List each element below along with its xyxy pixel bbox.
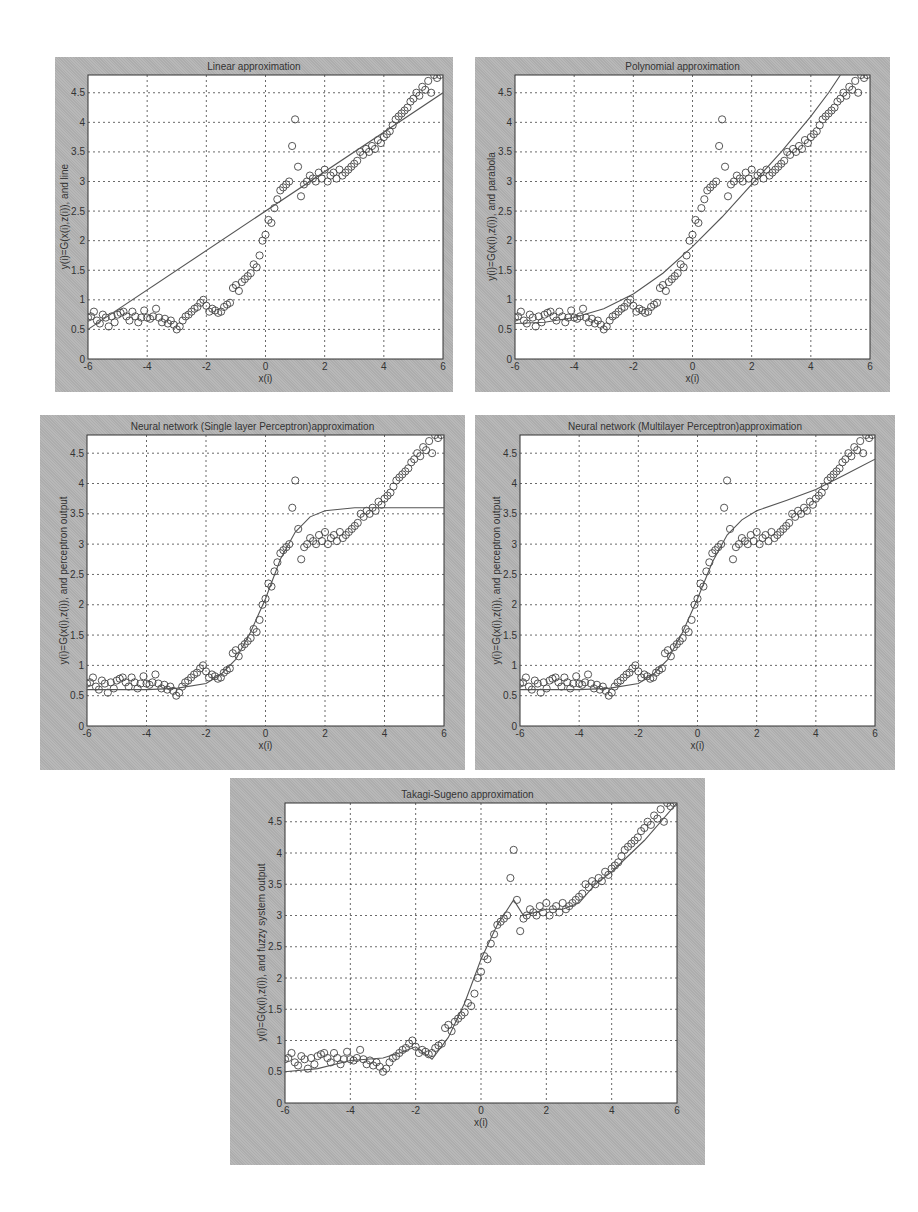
x-tick-label: -4 (570, 361, 579, 372)
y-tick-label: 3 (276, 910, 282, 921)
y-tick-label: 3.5 (503, 508, 517, 519)
y-tick-label: 0 (506, 354, 512, 365)
y-tick-label: 4.5 (498, 87, 512, 98)
y-tick-label: 1 (511, 660, 517, 671)
x-tick-label: 0 (263, 361, 269, 372)
plot-title: Neural network (Single layer Perceptron)… (40, 421, 465, 432)
x-tick-label: 2 (544, 1105, 550, 1116)
x-tick-label: -4 (142, 728, 151, 739)
y-tick-label: 3.5 (498, 146, 512, 157)
y-tick-label: 1 (276, 1035, 282, 1046)
y-tick-label: 2 (511, 599, 517, 610)
plot-title: Polynomial approximation (475, 61, 890, 72)
y-tick-label: 4.5 (268, 816, 282, 827)
x-tick-label: 0 (478, 1105, 484, 1116)
x-tick-label: -2 (629, 361, 638, 372)
y-tick-label: 4.5 (70, 448, 84, 459)
x-tick-label: 6 (674, 1105, 680, 1116)
y-tick-label: 0 (511, 721, 517, 732)
x-axis-label: x(i) (515, 373, 870, 384)
x-tick-label: -4 (575, 728, 584, 739)
plot-canvas: -6-4-2024600.511.522.533.544.5 (40, 415, 465, 770)
y-tick-label: 3 (511, 539, 517, 550)
y-tick-label: 0.5 (498, 324, 512, 335)
x-tick-label: -2 (411, 1105, 420, 1116)
plot-canvas: -6-4-2024600.511.522.533.544.5 (475, 415, 895, 770)
y-tick-label: 4 (78, 478, 84, 489)
plot-canvas: -6-4-2024600.511.522.533.544.5 (475, 57, 890, 392)
x-tick-label: -2 (202, 361, 211, 372)
x-tick-label: 4 (808, 361, 814, 372)
y-tick-label: 2 (78, 599, 84, 610)
y-tick-label: 2 (276, 973, 282, 984)
y-tick-label: 2.5 (71, 206, 85, 217)
x-tick-label: 2 (754, 728, 760, 739)
y-axis-label: y(i)=G(x(i),z(i)), and perceptron output (491, 435, 502, 726)
y-axis-label: y(i)=G(x(i),z(i)), and line (59, 75, 70, 359)
y-tick-label: 1.5 (70, 630, 84, 641)
x-tick-label: 0 (695, 728, 701, 739)
y-tick-label: 2.5 (498, 206, 512, 217)
y-tick-label: 2.5 (70, 569, 84, 580)
plot-single-layer-perceptron: -6-4-2024600.511.522.533.544.5 Neural ne… (40, 415, 465, 770)
y-tick-label: 0.5 (71, 324, 85, 335)
x-tick-label: 0 (263, 728, 269, 739)
plot-canvas: -6-4-2024600.511.522.533.544.5 (230, 778, 705, 1165)
y-tick-label: 1.5 (268, 1004, 282, 1015)
y-tick-label: 1 (506, 294, 512, 305)
y-axis-label: y(i)=G(x(i),z(i)), and perceptron output (58, 435, 69, 726)
y-tick-label: 1 (78, 660, 84, 671)
x-axis-label: x(i) (88, 373, 443, 384)
y-tick-label: 4.5 (503, 448, 517, 459)
y-tick-label: 4 (511, 478, 517, 489)
x-tick-label: 6 (441, 728, 447, 739)
x-tick-label: 4 (609, 1105, 615, 1116)
plot-linear-approximation: -6-4-2024600.511.522.533.544.5 Linear ap… (55, 57, 453, 392)
y-tick-label: 0.5 (268, 1066, 282, 1077)
y-tick-label: 3 (78, 539, 84, 550)
y-tick-label: 3 (79, 176, 85, 187)
x-tick-label: 2 (322, 728, 328, 739)
x-tick-label: 0 (690, 361, 696, 372)
y-axis-label: y(i)=G(x(i),z(i)), and parabola (486, 75, 497, 359)
y-tick-label: 0.5 (503, 690, 517, 701)
x-tick-label: -2 (202, 728, 211, 739)
plot-takagi-sugeno: -6-4-2024600.511.522.533.544.5 Takagi-Su… (230, 778, 705, 1165)
x-tick-label: 6 (867, 361, 873, 372)
x-tick-label: -4 (346, 1105, 355, 1116)
y-tick-label: 2.5 (503, 569, 517, 580)
y-tick-label: 1.5 (498, 265, 512, 276)
x-tick-label: 4 (813, 728, 819, 739)
plot-multilayer-perceptron: -6-4-2024600.511.522.533.544.5 Neural ne… (475, 415, 895, 770)
y-tick-label: 2 (79, 235, 85, 246)
y-tick-label: 3.5 (70, 508, 84, 519)
y-tick-label: 4 (506, 117, 512, 128)
plot-title: Neural network (Multilayer Perceptron)ap… (475, 421, 895, 432)
x-tick-label: -2 (634, 728, 643, 739)
plot-polynomial-approximation: -6-4-2024600.511.522.533.544.5 Polynomia… (475, 57, 890, 392)
y-tick-label: 3.5 (71, 146, 85, 157)
y-tick-label: 4 (276, 848, 282, 859)
y-tick-label: 0.5 (70, 690, 84, 701)
y-tick-label: 4 (79, 117, 85, 128)
plot-title: Linear approximation (55, 61, 453, 72)
y-tick-label: 1.5 (503, 630, 517, 641)
y-tick-label: 2.5 (268, 941, 282, 952)
x-axis-label: x(i) (285, 1117, 677, 1128)
x-axis-label: x(i) (87, 740, 444, 751)
y-axis-label: y(i)=G(x(i),z(i)), and fuzzy system outp… (256, 803, 267, 1103)
y-tick-label: 0 (79, 354, 85, 365)
y-tick-label: 2 (506, 235, 512, 246)
y-tick-label: 4.5 (71, 87, 85, 98)
y-tick-label: 3.5 (268, 879, 282, 890)
x-tick-label: 2 (322, 361, 328, 372)
x-axis-label: x(i) (520, 740, 875, 751)
y-tick-label: 1 (79, 294, 85, 305)
y-tick-label: 0 (276, 1098, 282, 1109)
x-tick-label: -4 (143, 361, 152, 372)
x-tick-label: 6 (440, 361, 446, 372)
y-tick-label: 0 (78, 721, 84, 732)
plot-canvas: -6-4-2024600.511.522.533.544.5 (55, 57, 453, 392)
plot-title: Takagi-Sugeno approximation (230, 789, 705, 800)
x-tick-label: 4 (382, 728, 388, 739)
